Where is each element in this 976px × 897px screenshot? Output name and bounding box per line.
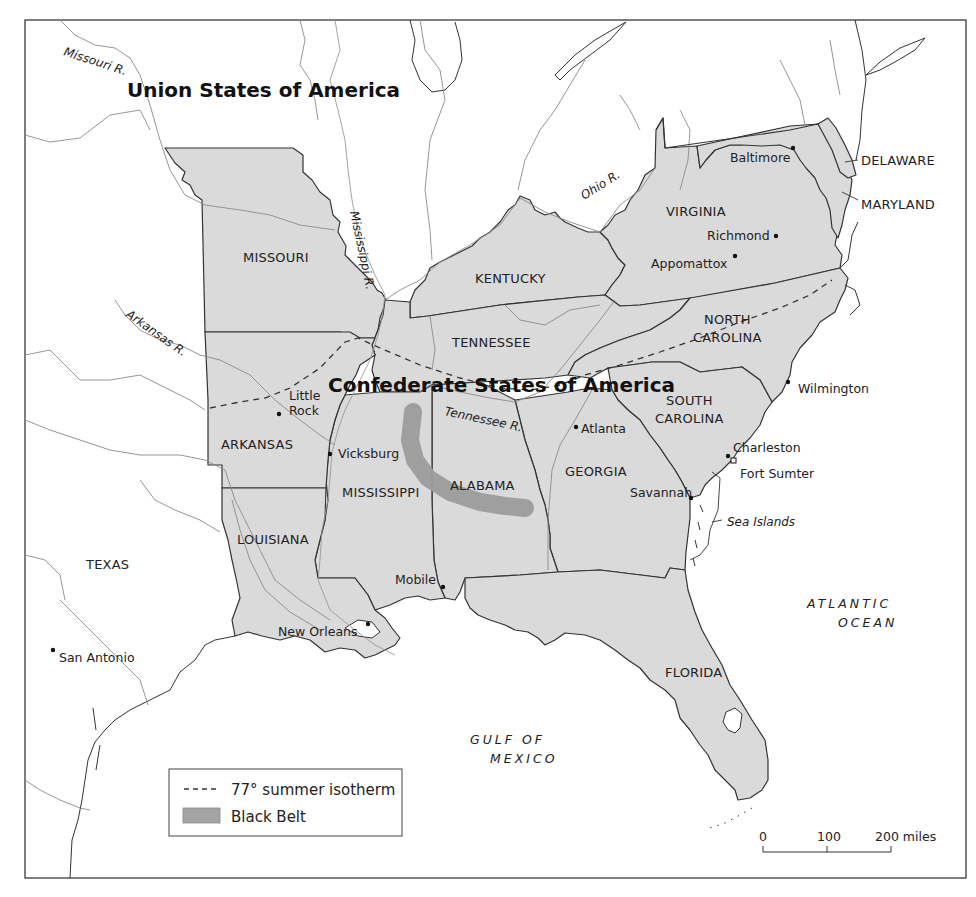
label-ohio-river: Ohio R. (578, 168, 622, 203)
label-gulf-2: MEXICO (490, 751, 558, 766)
legend-black-belt-swatch (183, 808, 220, 823)
label-georgia: GEORGIA (565, 464, 627, 479)
label-missouri: MISSOURI (243, 250, 309, 265)
label-little-rock-1: Little (289, 388, 321, 403)
label-alabama: ALABAMA (450, 478, 515, 493)
dot-san-antonio (51, 648, 55, 652)
label-vicksburg: Vicksburg (338, 446, 399, 461)
label-mississippi: MISSISSIPPI (342, 485, 419, 500)
state-missouri (165, 148, 386, 338)
label-south-carolina-1: SOUTH (666, 393, 713, 408)
dot-little-rock (277, 412, 281, 416)
dot-richmond (774, 234, 778, 238)
scale-label-200: 200 miles (875, 829, 936, 844)
legend: 77° summer isotherm Black Belt (169, 769, 402, 836)
dot-new-orleans (366, 622, 370, 626)
scale-label-100: 100 (817, 829, 841, 844)
union-title: Union States of America (127, 78, 400, 102)
scale-line (763, 846, 891, 852)
label-richmond: Richmond (707, 228, 770, 243)
label-south-carolina-2: CAROLINA (655, 411, 724, 426)
label-louisiana: LOUISIANA (237, 532, 309, 547)
label-virginia: VIRGINIA (666, 204, 726, 219)
label-baltimore: Baltimore (730, 150, 791, 165)
confederate-title: Confederate States of America (328, 373, 675, 397)
label-tennessee: TENNESSEE (451, 335, 531, 350)
label-mobile: Mobile (395, 572, 436, 587)
label-charleston: Charleston (733, 440, 801, 455)
dot-wilmington (786, 380, 790, 384)
dot-vicksburg (328, 452, 332, 456)
label-florida: FLORIDA (665, 665, 722, 680)
label-san-antonio: San Antonio (59, 650, 135, 665)
label-gulf-1: GULF OF (470, 732, 545, 747)
dot-baltimore (791, 146, 795, 150)
label-missouri-river: Missouri R. (62, 45, 129, 79)
label-texas: TEXAS (85, 557, 129, 572)
label-atlanta: Atlanta (581, 421, 626, 436)
label-little-rock-2: Rock (289, 403, 320, 418)
dot-mobile (441, 585, 445, 589)
label-arkansas-river: Arkansas R. (122, 306, 189, 359)
label-atlantic-1: ATLANTIC (806, 596, 891, 611)
dot-appomattox (733, 254, 737, 258)
label-north-carolina-1: NORTH (704, 312, 751, 327)
dot-atlanta (574, 425, 578, 429)
label-new-orleans: New Orleans (278, 624, 357, 639)
label-appomattox: Appomattox (651, 256, 727, 271)
scale-bar: 0 100 200 miles (759, 829, 936, 852)
label-fort-sumter: Fort Sumter (740, 466, 815, 481)
label-arkansas: ARKANSAS (221, 437, 293, 452)
legend-black-belt-label: Black Belt (231, 808, 306, 826)
label-wilmington: Wilmington (798, 381, 869, 396)
shaded-states (165, 118, 856, 800)
dot-charleston (726, 454, 730, 458)
label-sea-islands: Sea Islands (727, 515, 795, 529)
label-kentucky: KENTUCKY (475, 271, 546, 286)
legend-isotherm-label: 77° summer isotherm (231, 781, 395, 799)
label-north-carolina-2: CAROLINA (693, 330, 762, 345)
civil-war-map: Union States of America Confederate Stat… (0, 0, 976, 897)
label-atlantic-2: OCEAN (838, 615, 897, 630)
label-maryland: MARYLAND (861, 197, 935, 212)
label-delaware: DELAWARE (861, 153, 935, 168)
fort-sumter-marker (731, 458, 736, 463)
label-savannah: Savannah (630, 485, 692, 500)
scale-label-0: 0 (759, 829, 767, 844)
